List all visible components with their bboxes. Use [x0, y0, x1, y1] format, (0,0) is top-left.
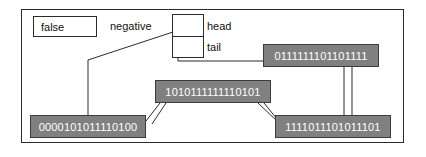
boolean-cell: false: [33, 16, 97, 37]
label-negative: negative: [110, 19, 152, 33]
label-tail: tail: [207, 40, 221, 54]
edge-middle-bottomleft-a: [146, 103, 160, 121]
pair-box-divider: [173, 36, 203, 37]
edge-middle-bottomleft-b: [152, 103, 166, 124]
node-box-bottom-left: 0000101011110100: [30, 115, 146, 138]
head-tail-pair-box: [172, 14, 204, 58]
label-head: head: [207, 19, 231, 33]
node-box-middle: 1010111111110101: [155, 80, 271, 103]
node-box-bottom-right: 1111011101011101: [275, 115, 391, 138]
boolean-cell-value: false: [41, 20, 64, 34]
node-box-top-right: 0111111101101111: [263, 44, 379, 67]
diagram-canvas: false negative head tail 011111110110111…: [0, 0, 426, 157]
